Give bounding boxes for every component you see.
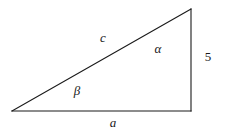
triangle-figure: c α β 5 a (0, 0, 231, 137)
angle-alpha-label: α (155, 42, 162, 55)
adjacent-side-label: a (110, 116, 117, 129)
hypotenuse-label: c (100, 31, 106, 44)
hypotenuse-line (12, 9, 191, 111)
angle-beta-label: β (74, 84, 80, 97)
opposite-side-label: 5 (205, 50, 212, 63)
